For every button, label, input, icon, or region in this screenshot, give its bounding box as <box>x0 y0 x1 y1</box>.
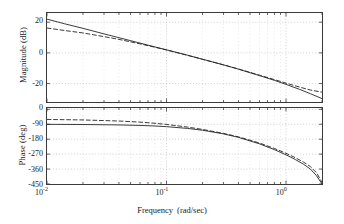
frequency-xtick-1e-1: 10-1 <box>155 188 177 197</box>
phase-ytick-minus360: -360 <box>14 165 43 174</box>
magnitude-plot-area <box>46 12 323 103</box>
phase-ytick-minus90: -90 <box>14 119 43 128</box>
xtick-exponent-1: -1 <box>163 186 168 192</box>
xtick-mantissa-2: 10 <box>276 188 284 197</box>
xtick-mantissa-0: 10 <box>35 188 43 197</box>
bode-plot-figure: Magnitude (dB) 20 0 -20 Phase (deg) 0 -9… <box>0 0 344 224</box>
magnitude-ytick-20: 20 <box>14 16 43 25</box>
phase-ytick-minus270: -270 <box>14 149 43 158</box>
phase-ytick-0: 0 <box>14 103 43 112</box>
xtick-exponent-2: 0 <box>284 186 287 192</box>
magnitude-ytick-0: 0 <box>14 48 43 57</box>
phase-curve-approximation <box>47 119 322 182</box>
xtick-exponent-0: -2 <box>43 186 48 192</box>
magnitude-canvas <box>47 13 322 102</box>
phase-plot-area <box>46 107 323 185</box>
frequency-axis-label: Frequency(rad/sec) <box>0 205 344 215</box>
frequency-xtick-1e-2: 10-2 <box>35 188 57 197</box>
magnitude-ytick-minus20: -20 <box>14 79 43 88</box>
phase-axis-label: Phase (deg) <box>17 101 27 189</box>
phase-canvas <box>47 108 322 184</box>
phase-ytick-minus180: -180 <box>14 134 43 143</box>
frequency-xtick-1e0: 100 <box>276 188 298 197</box>
xlabel-units: (rad/sec) <box>177 205 207 215</box>
xlabel-text: Frequency <box>137 205 173 215</box>
